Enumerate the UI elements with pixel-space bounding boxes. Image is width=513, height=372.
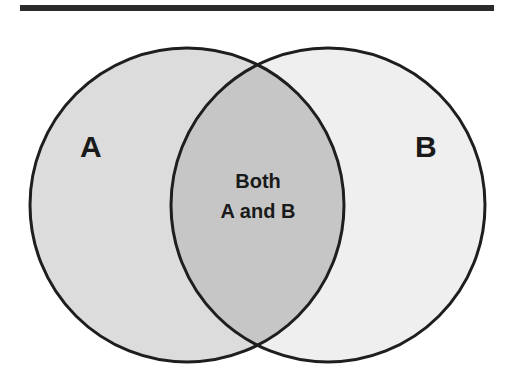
set-b-label: B (415, 130, 437, 164)
intersection-label-line1: Both (198, 166, 318, 196)
set-a-label: A (80, 130, 102, 164)
intersection-label: Both A and B (198, 166, 318, 226)
intersection-label-line2: A and B (198, 196, 318, 226)
